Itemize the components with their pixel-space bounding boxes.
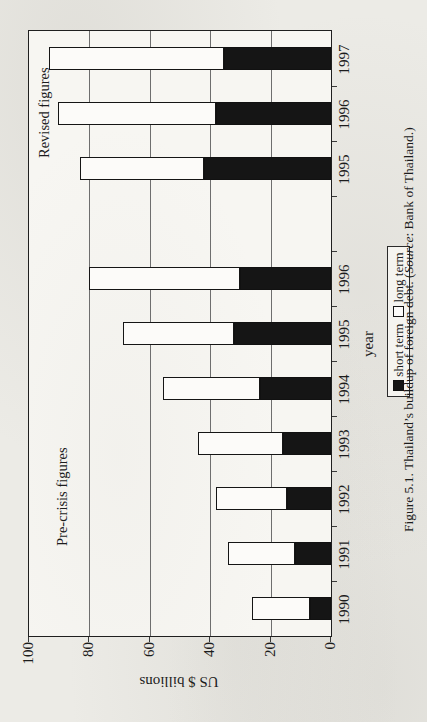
x-axis-tick-mark [332, 306, 337, 307]
bar-1992-long-term [216, 487, 287, 510]
y-tick-label-40: 40 [201, 642, 217, 688]
bar-1995-short-term [234, 322, 331, 345]
x-tick-label-1996: 1996 [336, 253, 352, 307]
x-axis-tick-mark [332, 416, 337, 417]
x-tick-label-1995: 1995 [336, 308, 352, 362]
plot-area: Pre-crisis figures Revised figures [28, 30, 332, 637]
bar-1995-long-term [123, 322, 235, 345]
x-axis-tick-mark [332, 86, 337, 87]
x-tick-label-1993: 1993 [336, 418, 352, 472]
x-tick-label-1990: 1990 [336, 583, 352, 637]
bar-1996-short-term [240, 267, 331, 290]
y-tick-label-80: 80 [80, 642, 96, 688]
x-axis-tick-mark [332, 581, 337, 582]
x-axis-tick-mark [332, 471, 337, 472]
y-axis-title: US $ billions [117, 674, 241, 690]
bar-1995-short-term-revised [204, 157, 331, 180]
bar-1990-long-term [252, 597, 309, 620]
annotation-revised-figures: Revised figures [36, 67, 53, 158]
bar-1992-short-term [287, 487, 331, 510]
x-axis-tick-mark [332, 141, 337, 142]
x-axis-tick-mark [332, 251, 337, 252]
bar-1996-long-term [89, 267, 240, 290]
x-tick-label-1991: 1991 [336, 528, 352, 582]
y-axis-tick-mark [270, 637, 271, 642]
y-axis-tick-mark [28, 637, 29, 642]
bar-1993-short-term [283, 432, 331, 455]
scanned-page: Pre-crisis figures Revised figures US $ … [0, 0, 427, 722]
figure-caption: Figure 5.1. Thailand’s buildup of foreig… [401, 7, 417, 532]
x-axis-tick-mark [332, 196, 337, 197]
y-tick-label-100: 100 [20, 642, 36, 688]
caption-text-before-source: Figure 5.1. Thailand’s buildup of foreig… [401, 274, 416, 532]
x-axis-tick-mark [332, 526, 337, 527]
y-tick-label-20: 20 [262, 642, 278, 688]
x-axis-title: year [360, 314, 377, 374]
bar-1996-long-term-revised [58, 102, 217, 125]
y-tick-label-60: 60 [141, 642, 157, 688]
x-tick-label-1992: 1992 [336, 473, 352, 527]
bar-1994-short-term [260, 377, 331, 400]
x-tick-label-1996-revised: 1996 [336, 88, 352, 142]
annotation-pre-crisis-figures: Pre-crisis figures [54, 447, 71, 546]
debt-chart: Pre-crisis figures Revised figures US $ … [0, 0, 427, 722]
x-tick-label-1997-revised: 1997 [336, 33, 352, 87]
caption-source-word: Source [401, 237, 416, 274]
bar-1994-long-term [163, 377, 260, 400]
x-axis-tick-mark [332, 361, 337, 362]
figure-rotated-stage: Pre-crisis figures Revised figures US $ … [0, 0, 427, 722]
bar-1993-long-term [198, 432, 283, 455]
y-axis-tick-mark [88, 637, 89, 642]
x-tick-label-1995-revised: 1995 [336, 143, 352, 197]
bar-1997-short-term-revised [224, 47, 331, 70]
bar-1996-short-term-revised [216, 102, 331, 125]
x-tick-label-1994: 1994 [336, 363, 352, 417]
y-axis-tick-mark [209, 637, 210, 642]
bar-1997-long-term-revised [49, 47, 224, 70]
bar-1990-short-term [310, 597, 331, 620]
bar-1995-long-term-revised [80, 157, 204, 180]
y-axis-tick-mark [149, 637, 150, 642]
y-axis-tick-mark [330, 637, 331, 642]
bar-1991-long-term [228, 542, 294, 565]
caption-text-after-source: : Bank of Thailand.) [401, 127, 416, 236]
y-tick-label-0: 0 [322, 642, 338, 688]
bar-1991-short-term [295, 542, 331, 565]
